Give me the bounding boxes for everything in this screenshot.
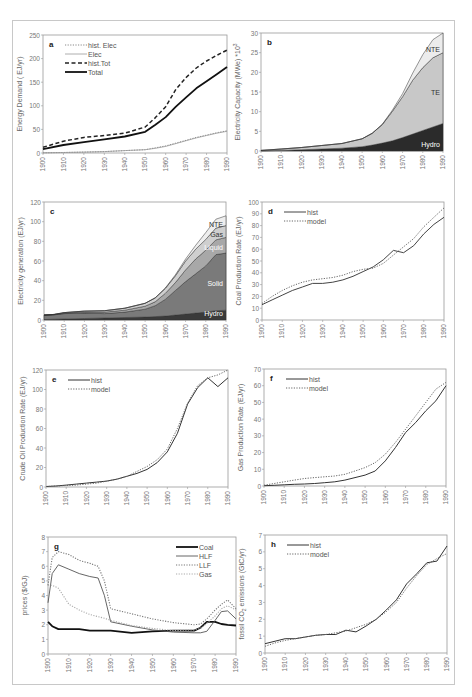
y-tick-label: 80 <box>34 238 42 245</box>
y-tick-label: 250 <box>29 32 40 39</box>
x-tick-label: 1990 <box>224 491 231 506</box>
y-tick-label: 80 <box>36 406 44 413</box>
x-tick-label: 1950 <box>362 657 369 672</box>
y-tick-label: 5 <box>254 128 258 135</box>
area-label: Liquid <box>204 244 223 252</box>
y-tick-label: 2 <box>258 616 262 623</box>
x-tick-label: 1930 <box>318 155 325 170</box>
y-tick-label: 100 <box>248 199 259 206</box>
x-tick-label: 1980 <box>420 324 427 339</box>
y-tick-label: 4 <box>41 592 45 599</box>
y-tick-label: 40 <box>36 445 44 452</box>
legend-label: Elec <box>88 51 102 58</box>
y-tick-label: 50 <box>252 258 260 265</box>
y-tick-label: 10 <box>251 108 259 115</box>
x-tick-label: 1970 <box>403 657 410 672</box>
x-tick-label: 1940 <box>339 324 346 339</box>
y-axis-label: fossil CO2 emissions (GtC/yr) <box>238 548 247 639</box>
y-tick-label: 100 <box>32 386 43 393</box>
panel-h: histmodelh012345671900191019201930194019… <box>238 532 450 672</box>
x-tick-label: 1930 <box>319 324 326 339</box>
x-tick-label: 1920 <box>83 491 90 506</box>
legend-label: hist <box>91 377 102 384</box>
y-tick-label: 6 <box>41 563 45 570</box>
y-tick-label: 6 <box>258 548 262 555</box>
y-tick-label: 0 <box>255 317 259 324</box>
area-label: Hydro <box>204 310 223 318</box>
panel-label: a <box>49 40 54 49</box>
y-tick-label: 1 <box>258 633 262 640</box>
x-tick-label: 1940 <box>128 658 135 673</box>
plot-area <box>43 35 227 153</box>
y-tick-label: 25 <box>251 49 259 56</box>
x-tick-label: 1930 <box>103 491 110 506</box>
x-tick-label: 1990 <box>439 155 446 170</box>
x-tick-label: 1980 <box>202 324 209 339</box>
area-label: NTE <box>209 221 223 228</box>
y-tick-label: 70 <box>252 234 260 241</box>
y-tick-label: 200 <box>29 55 40 62</box>
x-tick-label: 1950 <box>149 658 156 673</box>
x-tick-label: 1980 <box>204 491 211 506</box>
x-tick-label: 1990 <box>232 658 239 673</box>
y-tick-label: 3 <box>41 607 45 614</box>
y-tick-label: 20 <box>254 449 262 456</box>
y-tick-label: 5 <box>41 577 45 584</box>
x-tick-label: 1990 <box>223 157 230 172</box>
x-tick-label: 1900 <box>257 155 264 170</box>
x-tick-label: 1910 <box>65 658 72 673</box>
y-axis-label: Electricity Capacity (MWe) *103 <box>232 43 242 140</box>
x-tick-label: 1970 <box>399 155 406 170</box>
panel-label: c <box>50 207 55 216</box>
y-tick-label: 40 <box>252 269 260 276</box>
x-tick-label: 1960 <box>162 157 169 172</box>
x-tick-label: 1980 <box>423 657 430 672</box>
y-tick-label: 0 <box>39 484 43 491</box>
x-tick-label: 1950 <box>143 491 150 506</box>
x-tick-label: 1970 <box>184 491 191 506</box>
x-tick-label: 1970 <box>182 324 189 339</box>
legend-label: Coal <box>199 544 214 551</box>
y-tick-label: 15 <box>251 89 259 96</box>
plot-area <box>46 370 228 487</box>
y-tick-label: 40 <box>34 277 42 284</box>
y-tick-label: 60 <box>254 382 262 389</box>
y-tick-label: 50 <box>254 399 262 406</box>
y-axis-label: Coal Production Rate (EJ/yr) <box>235 216 243 305</box>
y-tick-label: 20 <box>36 464 44 471</box>
x-tick-label: 1940 <box>341 490 348 505</box>
panel-g: CoalHLFLLFGasg01234567819001910192019301… <box>21 534 239 673</box>
x-tick-label: 1910 <box>277 155 284 170</box>
x-tick-label: 1910 <box>60 157 67 172</box>
panel-label: h <box>271 540 276 549</box>
x-tick-label: 1940 <box>121 324 128 339</box>
plot-area <box>265 535 447 653</box>
y-tick-label: 20 <box>34 297 42 304</box>
x-tick-label: 1960 <box>380 324 387 339</box>
x-tick-label: 1950 <box>141 157 148 172</box>
x-tick-label: 1980 <box>203 157 210 172</box>
legend-label: hist.Tot <box>88 60 110 67</box>
x-tick-label: 1920 <box>81 324 88 339</box>
x-tick-label: 1930 <box>321 490 328 505</box>
legend-label: model <box>309 385 329 392</box>
panel-b: HydroTENTEb05101520253019001910192019301… <box>232 30 446 170</box>
area-label: Solid <box>207 280 223 287</box>
y-tick-label: 30 <box>254 432 262 439</box>
panel-f: histmodelf010203040506070190019101920193… <box>237 366 449 505</box>
legend-label: model <box>310 551 330 558</box>
x-tick-label: 1980 <box>419 155 426 170</box>
x-tick-label: 1970 <box>400 324 407 339</box>
x-tick-label: 1970 <box>190 658 197 673</box>
y-tick-label: 40 <box>254 416 262 423</box>
y-tick-label: 1 <box>41 636 45 643</box>
x-tick-label: 1960 <box>170 658 177 673</box>
x-tick-label: 1960 <box>164 491 171 506</box>
x-tick-label: 1900 <box>44 658 51 673</box>
x-tick-label: 1920 <box>301 490 308 505</box>
panel-c: HydroSolidLiquidGasNTEc02040608010012019… <box>17 199 229 339</box>
y-tick-label: 0 <box>257 483 261 490</box>
panel-label: d <box>268 207 273 216</box>
panel-label: e <box>52 375 57 384</box>
plot-area <box>262 202 444 320</box>
